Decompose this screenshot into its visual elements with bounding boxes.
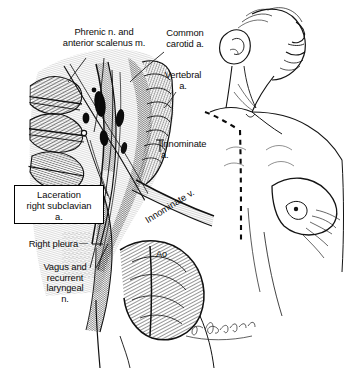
illustration-root: Phrenic n. and anterior scalenus m. Comm… — [0, 0, 347, 368]
label-laceration-right-subclavian: Laceration right subclavian a. — [14, 185, 104, 224]
label-aorta: Ao — [156, 249, 167, 259]
label-vagus-recurrent-laryngeal: Vagus and recurrent laryngeal n. — [34, 262, 96, 304]
right-pleura-arrow-icon: — — [79, 238, 88, 248]
label-right-pleura: Right pleura — [12, 239, 78, 250]
label-common-carotid: Common carotid a. — [153, 28, 217, 49]
label-innominate-artery: Innominate a. — [161, 139, 231, 160]
anatomical-drawing — [0, 0, 347, 368]
label-phrenic-scalenus: Phrenic n. and anterior scalenus m. — [52, 27, 156, 48]
label-vertebral-artery: Vertebral a. — [154, 70, 212, 91]
